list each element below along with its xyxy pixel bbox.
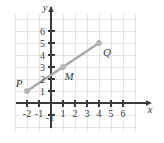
x-tick-label-5: 5 [109,108,114,119]
y-tick-label-4: 4 [40,50,45,61]
point-label-p: P [15,77,23,89]
x-tick-label-4: 4 [97,108,102,119]
x-axis-label: x [147,104,153,115]
graph-canvas: y x -2 -1 1 2 3 4 5 6 6 5 4 3 2 1 -1 P M… [0,0,164,143]
x-tick-label--1: -1 [35,108,43,119]
x-tick-label-3: 3 [85,108,90,119]
point-q [96,40,102,46]
coordinate-plane-figure: y x -2 -1 1 2 3 4 5 6 6 5 4 3 2 1 -1 P M… [0,0,164,143]
y-tick-label-6: 6 [40,26,45,37]
point-label-m: M [63,70,74,82]
y-tick-label-5: 5 [40,38,45,49]
y-tick-label-3: 3 [40,62,45,73]
y-tick-label--1: -1 [46,112,54,123]
x-tick-label--2: -2 [23,108,31,119]
y-tick-label-2: 2 [40,74,45,85]
x-tick-label-6: 6 [121,108,126,119]
y-tick-label-1: 1 [40,86,45,97]
point-label-q: Q [103,46,111,58]
point-p [24,88,30,94]
x-tick-label-2: 2 [73,108,78,119]
x-tick-label-1: 1 [61,108,66,119]
y-axis-label: y [42,2,48,13]
y-axis-arrow [48,6,54,12]
